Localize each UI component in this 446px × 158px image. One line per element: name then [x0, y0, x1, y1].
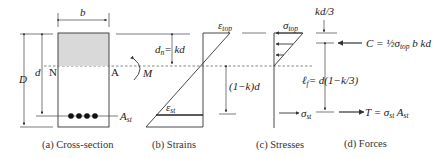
na-depth-label: dn= kd	[155, 43, 185, 57]
rebar	[84, 113, 90, 119]
panel-cross-section: b D d N A Ast M (a) Cross-section	[18, 6, 153, 151]
caption-a: (a) Cross-section	[42, 139, 114, 151]
caption-c: (c) Stresses	[256, 139, 304, 151]
width-label: b	[80, 6, 86, 18]
panel-forces: kd/3 ℓf= d(1−k/3) C = ½σtop b kd T = σst…	[302, 5, 431, 150]
caption-b: (b) Strains	[152, 139, 196, 151]
moment-arrow-icon	[134, 59, 140, 80]
compression-force-label: C = ½σtop b kd	[366, 37, 431, 51]
top-stress-label: σtop	[283, 19, 298, 33]
tension-force-label: T = σst Ast	[365, 106, 409, 120]
steel-area-label: Ast	[119, 110, 133, 124]
neutral-axis-n-label: N	[49, 66, 57, 78]
rebar	[92, 113, 98, 119]
compression-zone	[58, 33, 109, 66]
rebar	[76, 113, 82, 119]
below-na-label: (1−k)d	[229, 80, 260, 93]
rebar	[68, 113, 74, 119]
top-strain-label: εtop	[218, 19, 232, 33]
centroid-offset-label: kd/3	[315, 5, 334, 17]
moment-label: M	[142, 67, 153, 79]
stress-profile-line	[274, 33, 303, 66]
steel-stress-label: σst	[301, 107, 312, 121]
panel-strains: dn= kd εtop εst (1−k)d (b) Strains	[116, 19, 260, 151]
lever-arm-label: ℓf= d(1−k/3)	[302, 74, 358, 88]
steel-strain-label: εst	[166, 101, 176, 115]
caption-d: (d) Forces	[344, 138, 387, 150]
effective-depth-label: d	[35, 66, 41, 78]
total-depth-label: D	[18, 73, 27, 85]
rc-beam-section-diagram: b D d N A Ast M (a) Cross-section dn= kd	[0, 0, 446, 158]
neutral-axis-a-label: A	[111, 66, 119, 78]
